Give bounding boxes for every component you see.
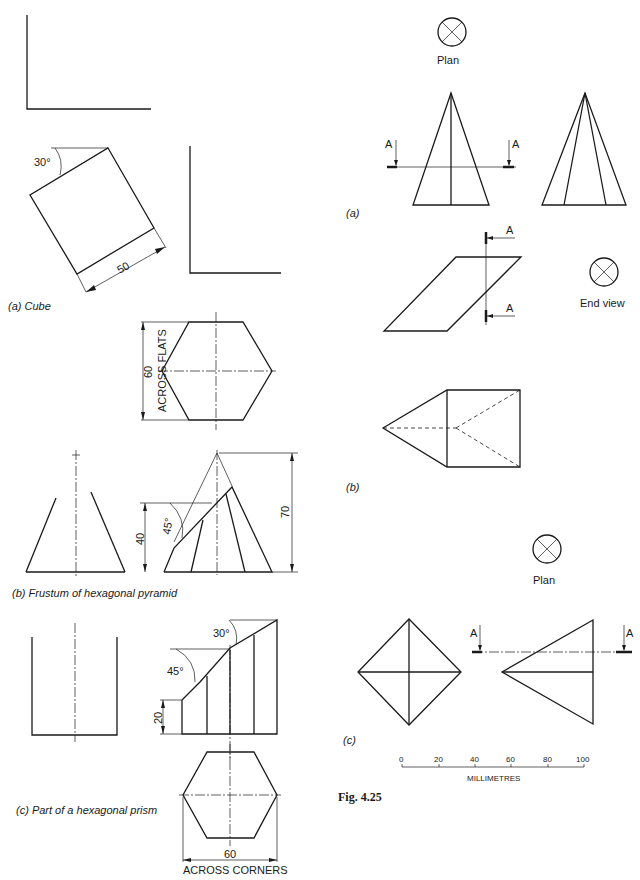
across-flats-label: ACROSS FLATS [156, 329, 168, 412]
scale-tick-40: 40 [470, 755, 479, 764]
oblique-drawing: A A [383, 224, 618, 467]
angle-arc [55, 148, 61, 175]
frustum-angle-label: 45° [160, 517, 175, 535]
section-label-a-left: A [385, 138, 393, 150]
prism-caption: (c) Part of a hexagonal prism [16, 804, 157, 816]
cube-caption: (a) Cube [8, 300, 51, 312]
section-label-c-left: A [470, 627, 478, 639]
cube-angle-label: 30° [34, 156, 51, 168]
across-corners-value: 60 [224, 848, 236, 860]
caption-b: (b) [346, 481, 359, 493]
cube-projection-axes-1 [27, 15, 151, 109]
caption-c: (c) [343, 734, 356, 746]
cube-side-label: 50 [115, 259, 132, 276]
frustum-height-label: 70 [279, 506, 291, 518]
across-flats-value: 60 [142, 366, 154, 378]
scale-tick-100: 100 [576, 755, 590, 764]
scale-tick-80: 80 [543, 755, 552, 764]
prism-height-label: 20 [152, 712, 164, 724]
caption-a: (a) [346, 207, 359, 219]
plan-label-a: Plan [437, 54, 459, 66]
end-view-label: End view [580, 297, 625, 309]
scale-tick-0: 0 [399, 755, 404, 764]
frustum-drawing: 60 ACROSS FLATS 70 40 45° [26, 312, 298, 577]
pyramid-drawing: A A [358, 535, 634, 725]
scale-unit-label: MILLIMETRES [467, 774, 520, 783]
section-label-b-bottom: A [506, 302, 514, 314]
frustum-cut-height-label: 40 [134, 533, 146, 545]
frustum-caption: (b) Frustum of hexagonal pyramid [12, 587, 177, 599]
section-label-b-top: A [506, 224, 514, 236]
cube-projection-axes-2 [190, 146, 281, 273]
cone-drawing: A A [385, 18, 626, 205]
prism-drawing: 20 45° 30° 60 [32, 620, 281, 862]
figure-label: Fig. 4.25 [338, 790, 382, 805]
section-label-a-right: A [512, 138, 520, 150]
drawing-canvas: 30° 50 60 ACROSS FLATS 70 [0, 0, 640, 880]
scale-tick-60: 60 [506, 755, 515, 764]
cube-drawing: 30° 50 [27, 15, 281, 292]
prism-angle-2-label: 45° [167, 665, 184, 677]
plan-label-c: Plan [533, 574, 555, 586]
prism-angle-1-label: 30° [213, 627, 230, 639]
scale-bar: 0 20 40 60 80 100 MILLIMETRES [399, 755, 590, 783]
scale-tick-20: 20 [434, 755, 443, 764]
across-corners-label: ACROSS CORNERS [183, 864, 288, 876]
section-label-c-right: A [626, 627, 634, 639]
